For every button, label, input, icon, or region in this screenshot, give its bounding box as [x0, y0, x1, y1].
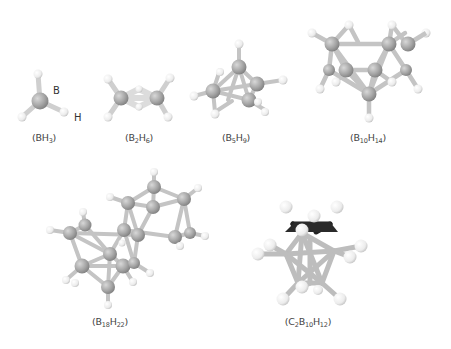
molecule-label-c2b10h12: (C2B10H12) — [285, 316, 331, 329]
c2b10h12-structure-icon — [0, 0, 451, 349]
